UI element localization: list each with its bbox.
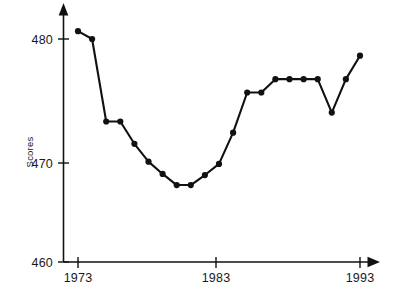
- data-point: [244, 89, 250, 95]
- data-point: [258, 89, 264, 95]
- data-point: [188, 182, 194, 188]
- data-point: [145, 159, 151, 165]
- data-point: [230, 130, 236, 136]
- data-point: [216, 161, 222, 167]
- y-axis-title: Scores: [24, 137, 35, 168]
- x-axis-arrow-icon: [368, 257, 381, 267]
- data-point: [117, 118, 123, 124]
- line-chart: 480 470 460 1973 1983 1993 Scores: [0, 0, 410, 299]
- data-point: [103, 118, 109, 124]
- x-tick-label-1993: 1993: [346, 271, 375, 285]
- data-point: [301, 76, 307, 82]
- chart-canvas: 480 470 460 1973 1983 1993 Scores: [0, 0, 410, 299]
- data-point: [89, 36, 95, 42]
- data-point: [329, 109, 335, 115]
- data-point: [202, 172, 208, 178]
- x-tick-label-1983: 1983: [202, 271, 231, 285]
- data-point: [131, 141, 137, 147]
- data-point: [272, 76, 278, 82]
- data-point: [75, 28, 81, 34]
- y-axis-arrow-icon: [59, 3, 69, 16]
- data-point: [343, 76, 349, 82]
- data-point: [160, 171, 166, 177]
- data-point: [174, 182, 180, 188]
- series-markers-scores: [75, 28, 363, 188]
- y-tick-label-480: 480: [32, 33, 53, 47]
- data-point: [286, 76, 292, 82]
- data-point: [357, 53, 363, 59]
- y-tick-label-460: 460: [32, 256, 53, 270]
- data-point: [315, 76, 321, 82]
- x-tick-label-1973: 1973: [64, 271, 93, 285]
